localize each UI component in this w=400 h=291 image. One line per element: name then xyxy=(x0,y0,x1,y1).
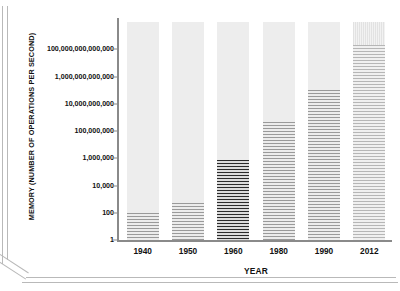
bar-fill[interactable] xyxy=(172,203,204,240)
plot-area xyxy=(120,22,392,240)
y-axis-tick-label: 1,000,000,000,000 xyxy=(2,73,114,81)
bar-group[interactable] xyxy=(217,22,249,240)
y-axis-tick-mark xyxy=(113,49,117,50)
y-axis-tick-mark xyxy=(113,103,117,104)
x-axis-line xyxy=(117,240,392,242)
y-axis-tick-mark xyxy=(113,158,117,159)
x-axis-title: YEAR xyxy=(118,266,394,276)
bar-fill[interactable] xyxy=(127,213,159,240)
y-axis-tick-mark xyxy=(113,131,117,132)
bar-group[interactable] xyxy=(263,22,295,240)
y-axis-tick-mark xyxy=(113,240,117,241)
bar-fill[interactable] xyxy=(217,160,249,240)
bar-fill[interactable] xyxy=(353,45,385,240)
bar-fill[interactable] xyxy=(308,90,340,240)
bar-group[interactable] xyxy=(353,22,385,240)
y-axis-tick-mark xyxy=(113,76,117,77)
y-axis-tick-label: 10,000 xyxy=(2,182,114,190)
y-axis-line xyxy=(117,18,119,242)
y-axis-tick-labels: 110010,0001,000,000100,000,00010,000,000… xyxy=(0,0,114,291)
y-axis-tick-mark xyxy=(113,212,117,213)
bar-fill[interactable] xyxy=(263,122,295,240)
bar-group[interactable] xyxy=(172,22,204,240)
y-axis-tick-label: 100,000,000,000,000 xyxy=(2,45,114,53)
y-axis-tick-label: 10,000,000,000 xyxy=(2,100,114,108)
y-axis-tick-mark xyxy=(113,185,117,186)
y-axis-tick-label: 1 xyxy=(2,236,114,244)
bar-group[interactable] xyxy=(127,22,159,240)
bar-track xyxy=(127,22,159,240)
bar-group[interactable] xyxy=(308,22,340,240)
y-axis-tick-label: 1,000,000 xyxy=(2,154,114,162)
y-axis-tick-label: 100 xyxy=(2,209,114,217)
y-axis-tick-label: 100,000,000 xyxy=(2,127,114,135)
x-axis-tick-label: 2012 xyxy=(339,246,399,256)
chart-figure: MEMORY (NUMBER OF OPERATIONS PER SECOND)… xyxy=(0,0,400,291)
